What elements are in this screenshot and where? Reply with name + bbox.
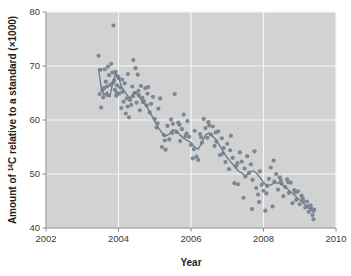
data-point <box>125 104 129 108</box>
data-point <box>126 72 130 76</box>
data-point <box>160 145 164 149</box>
data-point <box>121 100 125 104</box>
data-point <box>245 154 249 158</box>
data-point <box>232 181 236 185</box>
data-point <box>238 150 242 154</box>
data-point <box>250 207 254 211</box>
data-point <box>167 137 171 141</box>
data-point <box>254 186 258 190</box>
data-point <box>109 62 113 66</box>
data-point <box>229 134 233 138</box>
data-point <box>286 180 290 184</box>
data-point <box>223 160 227 164</box>
data-point <box>178 139 182 143</box>
data-point <box>115 90 119 94</box>
data-point <box>240 159 244 163</box>
data-point <box>211 124 215 128</box>
x-tick-label: 2006 <box>180 233 201 244</box>
data-point <box>133 66 137 70</box>
data-point <box>103 67 107 71</box>
data-point <box>243 167 247 171</box>
data-point <box>227 167 231 171</box>
data-point <box>139 84 143 88</box>
data-point <box>138 108 142 112</box>
data-point <box>251 178 255 182</box>
data-point <box>191 156 195 160</box>
data-point <box>151 95 155 99</box>
data-point <box>158 96 162 100</box>
data-point <box>177 123 181 127</box>
data-point <box>129 103 133 107</box>
data-point <box>225 142 229 146</box>
data-point <box>182 113 186 117</box>
chart-figure: 20022004200620082010 4050607080 Year Amo… <box>0 0 351 276</box>
x-axis-title: Year <box>180 257 201 268</box>
data-point <box>101 95 105 99</box>
y-tick-label: 50 <box>29 168 40 179</box>
data-point <box>124 111 128 115</box>
data-point <box>130 84 134 88</box>
data-point <box>169 117 173 121</box>
data-point <box>203 126 207 130</box>
data-point <box>257 200 261 204</box>
scatter-chart: 20022004200620082010 4050607080 Year Amo… <box>0 0 351 276</box>
data-point <box>260 183 264 187</box>
y-tick-labels: 4050607080 <box>29 6 40 233</box>
data-point <box>185 119 189 123</box>
data-point <box>249 162 253 166</box>
data-point <box>120 77 124 81</box>
data-point <box>111 23 115 27</box>
data-point <box>214 130 218 134</box>
data-point <box>298 202 302 206</box>
data-point <box>107 73 111 77</box>
y-axis-title: Amount of 14C relative to a standard (×1… <box>7 16 18 224</box>
data-point <box>220 136 224 140</box>
x-tick-label: 2002 <box>35 233 56 244</box>
data-point <box>258 169 262 173</box>
data-point <box>135 101 139 105</box>
data-point <box>276 188 280 192</box>
data-point <box>252 149 256 153</box>
data-point <box>171 122 175 126</box>
data-point <box>274 172 278 176</box>
data-point <box>310 213 314 217</box>
data-point <box>104 80 108 84</box>
x-tick-label: 2008 <box>253 233 274 244</box>
data-point <box>228 148 232 152</box>
data-point <box>106 64 110 68</box>
data-point <box>269 165 273 169</box>
data-point <box>241 196 245 200</box>
data-point <box>281 194 285 198</box>
data-point <box>163 138 167 142</box>
data-point <box>256 192 260 196</box>
data-point <box>202 117 206 121</box>
data-point <box>96 54 100 58</box>
data-point <box>236 182 240 186</box>
data-point <box>193 129 197 133</box>
data-point <box>270 204 274 208</box>
x-tick-label: 2010 <box>325 233 346 244</box>
y-tick-label: 70 <box>29 60 40 71</box>
data-point <box>264 191 268 195</box>
data-point <box>305 199 309 203</box>
y-tick-label: 80 <box>29 6 40 17</box>
data-point <box>123 81 127 85</box>
data-point <box>206 120 210 124</box>
data-point <box>301 196 305 200</box>
data-point <box>231 156 235 160</box>
data-point <box>173 92 177 96</box>
data-point <box>127 115 131 119</box>
data-point <box>279 178 283 182</box>
data-point <box>196 158 200 162</box>
data-point <box>263 209 267 213</box>
y-tick-label: 40 <box>29 222 40 233</box>
data-point <box>235 161 239 165</box>
data-point <box>185 131 189 135</box>
data-point <box>164 148 168 152</box>
data-point <box>156 107 160 111</box>
data-point <box>199 135 203 139</box>
data-point <box>119 106 123 110</box>
data-point <box>272 158 276 162</box>
data-point <box>290 201 294 205</box>
data-point <box>136 73 140 77</box>
